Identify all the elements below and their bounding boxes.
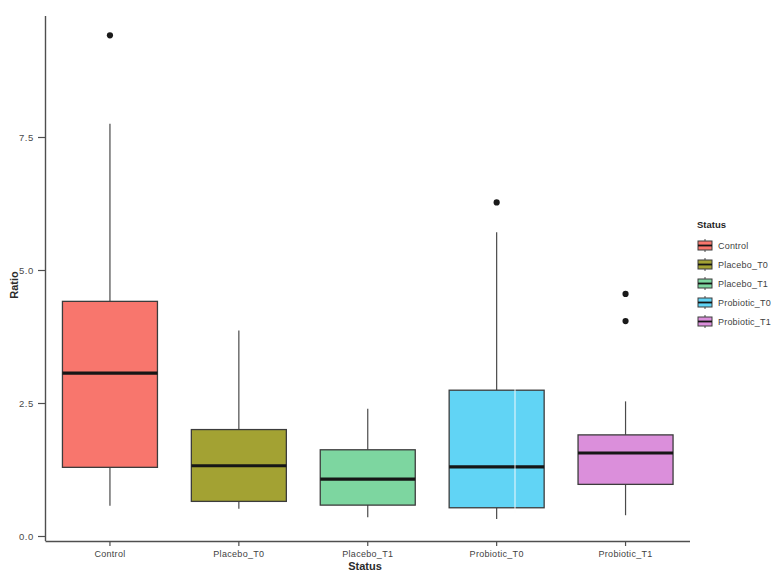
x-tick-label-placebo_t0: Placebo_T0 [213,549,264,559]
outlier-point [622,318,628,324]
legend-item-label: Placebo_T0 [718,260,768,270]
legend-item-label: Probiotic_T0 [718,298,771,308]
legend-item-label: Probiotic_T1 [718,317,771,327]
outlier-point [494,199,500,205]
legend-item-label: Control [718,241,748,251]
legend-title: Status [697,219,726,230]
boxplot-figure: 0.02.55.07.5 ControlPlacebo_T0Placebo_T1… [0,0,780,574]
legend-item-control[interactable]: Control [698,239,748,252]
outlier-point [107,32,113,38]
x-axis-title: Status [348,560,382,572]
y-axis-title: Ratio [8,271,20,299]
x-tick-label-placebo_t1: Placebo_T1 [342,549,393,559]
x-tick-label-probiotic_t1: Probiotic_T1 [598,549,652,559]
box-body[interactable] [578,435,673,484]
outlier-point [622,291,628,297]
legend-item-placebo_t0[interactable]: Placebo_T0 [698,258,768,271]
x-tick-label-control: Control [94,549,125,559]
x-tick-label-probiotic_t0: Probiotic_T0 [470,549,524,559]
y-tick-label: 2.5 [19,398,34,409]
box-body[interactable] [62,301,157,467]
legend-item-probiotic_t1[interactable]: Probiotic_T1 [698,315,771,328]
y-tick-label: 7.5 [19,132,34,143]
y-tick-label: 0.0 [19,531,34,542]
legend-item-probiotic_t0[interactable]: Probiotic_T0 [698,296,771,309]
legend-item-label: Placebo_T1 [718,279,768,289]
y-tick-label: 5.0 [19,265,34,276]
box-body[interactable] [449,390,544,508]
legend-item-placebo_t1[interactable]: Placebo_T1 [698,277,768,290]
